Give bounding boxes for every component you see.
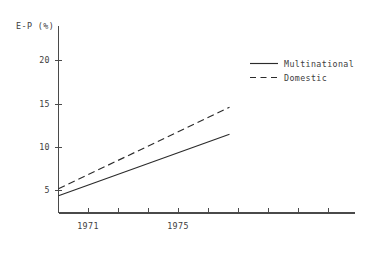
x-tick-label-1971: 1971 (68, 222, 108, 230)
axes-group (59, 26, 356, 213)
y-tick-label-10: 10 (28, 143, 50, 151)
x-tick-label-1975: 1975 (158, 222, 198, 230)
series-line-multinational (59, 134, 230, 196)
chart-canvas (0, 0, 372, 254)
chart-container: E-P (%) 20 15 10 5 1971 1975 Multination… (0, 0, 372, 254)
legend-label-multinational: Multinational (284, 60, 354, 68)
y-tick-label-5: 5 (28, 186, 50, 194)
y-tick-label-15: 15 (28, 100, 50, 108)
series-line-domestic (59, 107, 230, 188)
x-tick-marks (59, 208, 329, 213)
y-tick-label-20: 20 (28, 56, 50, 64)
legend-label-domestic: Domestic (284, 74, 327, 82)
y-axis-title: E-P (%) (16, 22, 54, 30)
series-group (59, 107, 230, 195)
legend-samples (250, 64, 278, 78)
